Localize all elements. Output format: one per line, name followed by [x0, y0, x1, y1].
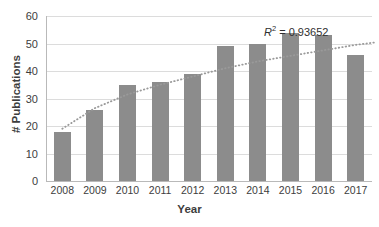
bar [347, 55, 364, 182]
bar-slot [176, 16, 209, 181]
y-axis-tick-label: 20 [8, 121, 38, 132]
bar-slot [79, 16, 112, 181]
publications-bar-chart: # Publications 0102030405060 R2 = 0.9365… [0, 0, 379, 227]
bar-slot [274, 16, 307, 181]
bar-slot [111, 16, 144, 181]
bar-slot [307, 16, 340, 181]
y-axis-tick-label: 50 [8, 39, 38, 50]
bar-slot [144, 16, 177, 181]
bar [249, 44, 266, 182]
bar-slot [209, 16, 242, 181]
r-squared-value: = 0.93652 [276, 26, 328, 38]
bar-slot [242, 16, 275, 181]
r-squared-symbol: R [264, 26, 272, 38]
bar [184, 74, 201, 181]
bar [217, 46, 234, 181]
y-axis-tick-label: 40 [8, 66, 38, 77]
bar [152, 82, 169, 181]
bar [119, 85, 136, 181]
x-axis-tick-label: 2017 [336, 184, 376, 196]
bar [86, 110, 103, 182]
bar-slot [46, 16, 79, 181]
bar [282, 33, 299, 182]
y-axis-tick-label: 60 [8, 11, 38, 22]
r-squared-annotation: R2 = 0.93652 [264, 24, 328, 38]
y-axis-tick-label: 30 [8, 94, 38, 105]
bar [54, 132, 71, 182]
bar-slot [339, 16, 372, 181]
bars-layer [46, 16, 372, 181]
y-axis-tick-label: 10 [8, 149, 38, 160]
y-axis-tick-label: 0 [8, 176, 38, 187]
x-axis-line [46, 181, 372, 182]
x-axis-title: Year [0, 203, 379, 215]
bar [315, 35, 332, 181]
